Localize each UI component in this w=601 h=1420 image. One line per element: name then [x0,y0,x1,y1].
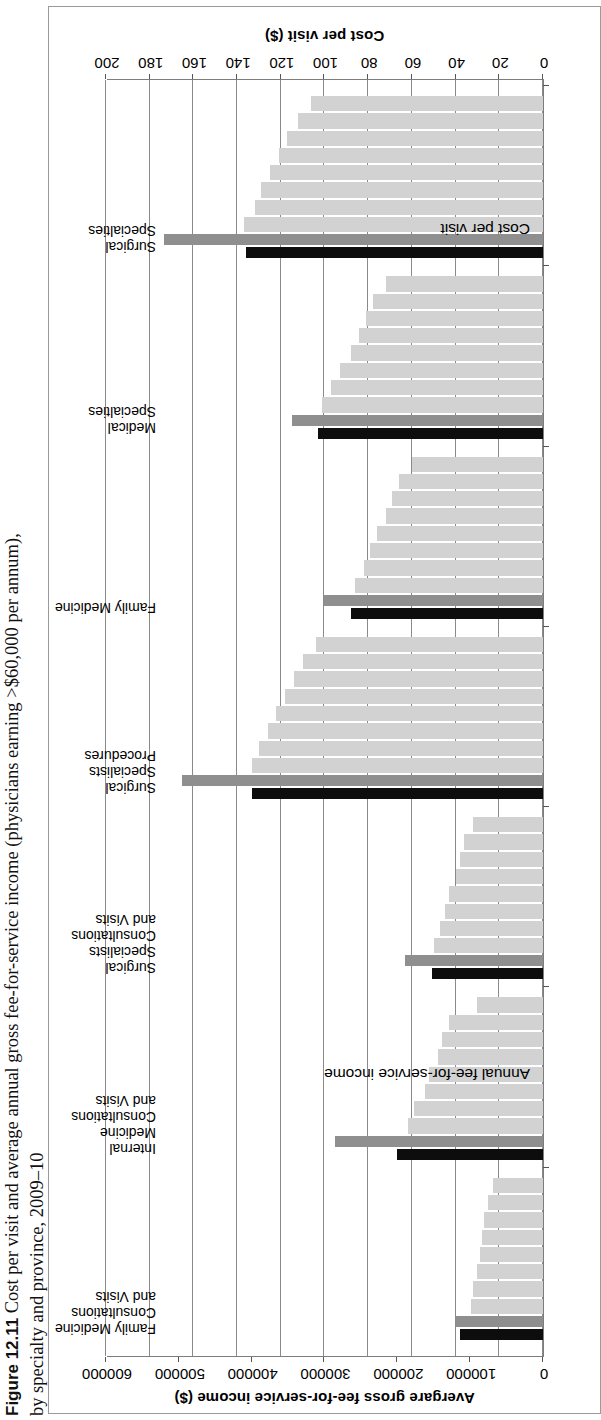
bar-province [386,508,543,523]
category-tick-mark [543,1167,549,1168]
income-tick-mark [324,1357,325,1362]
category-tick-mark [543,806,549,807]
cost-tick-mark [367,74,368,79]
category-label: SurgicalSpecialties [51,223,156,255]
cost-tick-mark [324,74,325,79]
cost-tick-mark [542,74,543,79]
bar-province [392,491,543,506]
rotated-chart-wrapper: Avergare gross fee-for-service income ($… [49,7,600,1413]
cost-tick-mark [105,74,106,79]
bar-province [425,1084,543,1099]
bar-province [473,1281,543,1296]
bar-province [285,689,543,704]
cost-tick-label: 200 [94,55,119,72]
cost-tick-mark [280,74,281,79]
bar-province [464,834,543,849]
bar-province [331,380,543,395]
bar-group [107,455,543,619]
bar-province [482,1230,543,1245]
bar-province [279,148,543,163]
bar-annual-income [405,955,543,966]
category-tick-mark [543,446,549,447]
bar-province [351,345,543,360]
bar-province [370,543,543,558]
bar-cost-per-visit [252,788,543,799]
bar-province [364,560,543,575]
caption-line-2: by specialty and province, 2009–10 [25,0,50,1420]
bar-province [340,363,543,378]
income-tick-mark [469,1357,470,1362]
bar-cost-per-visit [318,428,543,439]
bar-cost-per-visit [351,608,543,619]
category-label: Family MedicineConsultationsand Visits [51,1289,156,1337]
bar-province [359,328,543,343]
income-tick-label: 400000 [228,1366,278,1383]
category-tick-mark [543,986,549,987]
income-tick-mark [396,1357,397,1362]
cost-tick-label: 60 [405,55,422,72]
bar-province [399,474,543,489]
bar-group [107,815,543,979]
bar-group [107,1176,543,1340]
category-tick-mark [543,265,549,266]
income-tick-mark [178,1357,179,1362]
cost-tick-mark [149,74,150,79]
bar-province [414,1101,543,1116]
bar-province [303,654,543,669]
cost-tick-mark [455,74,456,79]
bar-province [276,706,543,721]
bar-province [484,1212,543,1227]
annotation-cost-per-visit: Cost per visit [440,220,530,238]
category-label: SurgicalSpecialistsConsultationsand Visi… [51,912,156,976]
bar-province [252,758,543,773]
bar-annual-income [335,1136,543,1147]
bar-province [386,276,543,291]
plot-area [107,79,544,1357]
category-tick-mark [543,626,549,627]
bar-cost-per-visit [246,247,543,258]
cost-tick-label: 100 [313,55,338,72]
bar-province [477,1264,543,1279]
bar-province [443,1032,544,1047]
bar-annual-income [456,1316,543,1327]
cost-tick-mark [498,74,499,79]
bar-province [311,96,543,111]
bar-cost-per-visit [460,1329,543,1340]
cost-axis-title: Cost per visit ($) [49,28,600,45]
income-tick-label: 600000 [82,1366,132,1383]
income-tick-label: 300000 [300,1366,350,1383]
bar-province [261,182,543,197]
category-label: SurgicalSpecialistsProcedures [51,748,156,796]
bar-province [316,637,543,652]
bar-province [377,526,543,541]
bar-province [268,723,543,738]
cost-tick-label: 160 [182,55,207,72]
income-axis-title: Avergare gross fee-for-service income ($… [49,1390,600,1407]
bar-province [287,131,543,146]
category-label: InternalMedicineConsultationsand Visits [51,1093,156,1157]
income-tick-label: 500000 [155,1366,205,1383]
cost-tick-mark [192,74,193,79]
bar-province [488,1195,543,1210]
bar-province [493,1178,543,1193]
caption-line-1: Cost per visit and average annual gross … [2,533,22,1313]
gridline [105,80,106,1356]
bar-group [107,635,543,799]
bar-annual-income [182,775,543,786]
bar-annual-income [292,415,543,426]
income-tick-mark [251,1357,252,1362]
income-tick-mark [105,1357,106,1362]
cost-tick-mark [411,74,412,79]
bar-province [480,1247,543,1262]
category-tick-mark [543,85,549,86]
income-tick-mark [542,1357,543,1362]
bar-province [460,852,543,867]
bar-province [294,671,543,686]
figure-box: Avergare gross fee-for-service income ($… [48,6,601,1414]
bar-province [440,921,543,936]
cost-tick-mark [236,74,237,79]
bar-province [408,1118,543,1133]
cost-tick-label: 120 [269,55,294,72]
income-tick-label: 0 [540,1366,548,1383]
income-tick-label: 200000 [373,1366,423,1383]
